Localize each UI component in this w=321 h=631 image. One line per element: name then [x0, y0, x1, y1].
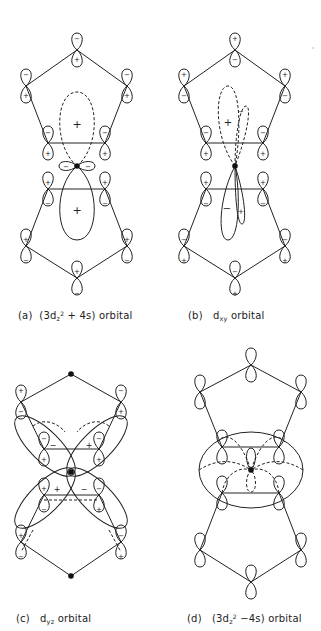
svg-text:−: − [18, 408, 24, 416]
svg-text:+: + [23, 92, 29, 100]
metal-atom [74, 163, 80, 169]
svg-text:−: − [181, 236, 187, 244]
svg-text:−: − [96, 485, 102, 493]
svg-text:−: − [124, 71, 130, 79]
svg-text:−: − [23, 71, 29, 79]
panel-c-diagram: +− −+ −+ −+ +− −+ +− −+ − + + [6, 371, 136, 579]
svg-text:+: + [260, 150, 266, 158]
caption-b: (b) dxy orbital [188, 310, 265, 323]
panel-b-diagram: +− +− +− −+ −+ −+ −+ −+ +− +− + − − + [179, 33, 291, 298]
svg-text:−: − [238, 108, 244, 116]
svg-text:−: − [260, 129, 266, 137]
panel-label-c: (c) [16, 613, 30, 624]
svg-text:+: + [282, 257, 288, 265]
svg-text:+: + [118, 553, 124, 561]
svg-text:−: − [18, 553, 24, 561]
svg-text:+: + [203, 179, 209, 187]
svg-text:+: + [181, 257, 187, 265]
svg-text:−: − [41, 435, 47, 443]
svg-text:+: + [41, 456, 47, 464]
svg-text:+: + [54, 485, 61, 494]
svg-text:−: − [85, 163, 91, 171]
svg-text:+: + [118, 408, 124, 416]
svg-text:−: − [50, 441, 57, 450]
caption-c: (c) dyz orbital [16, 613, 91, 626]
svg-text:−: − [232, 268, 238, 276]
metal-atom [68, 469, 74, 475]
svg-text:+: + [18, 387, 24, 395]
svg-text:−: − [223, 203, 231, 214]
metal-atom [232, 163, 238, 169]
svg-text:−: − [41, 506, 47, 514]
svg-text:+: + [124, 236, 130, 244]
caption-d: (d) (3dz2 −4s) orbital [187, 613, 302, 626]
svg-text:−: − [203, 200, 209, 208]
svg-text:+: + [238, 208, 244, 216]
svg-text:+: + [282, 71, 288, 79]
svg-text:+: + [260, 179, 266, 187]
svg-text:+: + [181, 71, 187, 79]
svg-text:−: − [102, 200, 108, 208]
svg-text:−: − [96, 435, 102, 443]
panel-label-b: (b) [188, 310, 203, 321]
svg-text:+: + [96, 506, 102, 514]
svg-text:−: − [124, 257, 130, 265]
svg-text:−: − [23, 257, 29, 265]
svg-text:+: + [102, 179, 108, 187]
svg-text:+: + [41, 485, 47, 493]
caption-a: (a) (3dz2 + 4s) orbital [18, 310, 133, 323]
metal-orbital-dxy [218, 86, 248, 240]
svg-text:+: + [74, 56, 80, 64]
svg-text:−: − [102, 129, 108, 137]
svg-text:+: + [224, 117, 232, 128]
svg-text:−: − [282, 92, 288, 100]
svg-text:−: − [118, 532, 124, 540]
svg-text:+: + [45, 150, 51, 158]
panel-a-diagram: −+ −+ −+ −+ −+ +− +− +− +− +− + + −− [21, 33, 133, 298]
panel-label-d: (d) [187, 613, 202, 624]
svg-text:+: + [23, 236, 29, 244]
svg-text:−: − [63, 163, 69, 171]
svg-text:+: + [86, 441, 93, 450]
svg-text:−: − [118, 387, 124, 395]
svg-text:+: + [232, 35, 238, 43]
svg-text:+: + [203, 150, 209, 158]
svg-text:−: − [81, 485, 88, 494]
svg-text:+: + [102, 150, 108, 158]
svg-text:+: + [124, 92, 130, 100]
svg-text:+: + [232, 290, 238, 298]
svg-text:−: − [232, 56, 238, 64]
panel-label-a: (a) [18, 310, 33, 321]
svg-text:+: + [72, 204, 81, 217]
svg-text:−: − [282, 236, 288, 244]
metal-orbital-dyz [6, 407, 136, 552]
svg-text:−: − [74, 290, 80, 298]
metal-atom [248, 467, 254, 473]
svg-text:−: − [45, 129, 51, 137]
svg-text:−: − [181, 92, 187, 100]
svg-text:−: − [260, 200, 266, 208]
svg-text:+: + [74, 268, 80, 276]
svg-text:−: − [74, 35, 80, 43]
svg-text:+: + [45, 179, 51, 187]
svg-text:−: − [203, 129, 209, 137]
svg-text:−: − [45, 200, 51, 208]
svg-text:+: + [72, 118, 81, 131]
panel-d-diagram [195, 348, 307, 599]
svg-text:+: + [18, 532, 24, 540]
